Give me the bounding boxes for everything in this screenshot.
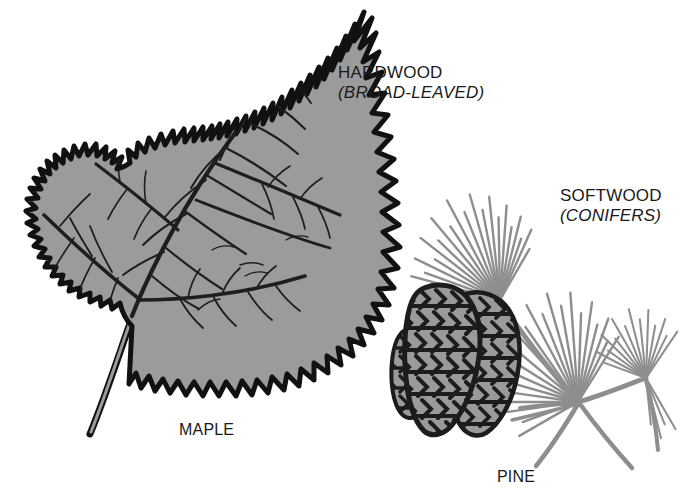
pine-specimen-label: PINE <box>497 468 535 486</box>
maple-specimen-label: MAPLE <box>179 421 234 439</box>
hardwood-caption: HARDWOOD (BROAD-LEAVED) <box>338 63 484 103</box>
hardwood-caption-line2: (BROAD-LEAVED) <box>338 83 484 103</box>
hardwood-caption-line1: HARDWOOD <box>338 63 484 83</box>
softwood-caption-line2: (CONIFERS) <box>560 206 662 226</box>
illustration-figure: HARDWOOD (BROAD-LEAVED) SOFTWOOD (CONIFE… <box>0 0 683 500</box>
softwood-caption-line1: SOFTWOOD <box>560 186 662 206</box>
softwood-caption: SOFTWOOD (CONIFERS) <box>560 186 662 226</box>
